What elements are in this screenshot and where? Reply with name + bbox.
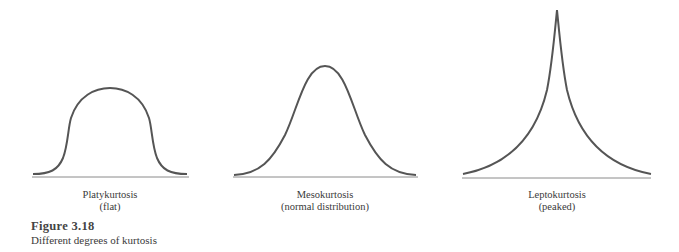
figure-number: Figure 3.18 [31, 219, 94, 234]
mesokurtic-curve [234, 66, 416, 175]
kurtosis-diagram [0, 0, 679, 252]
mesokurtosis-label: Mesokurtosis (normal distribution) [265, 189, 385, 213]
panel-title: Mesokurtosis [265, 189, 385, 201]
platykurtic-curve [33, 88, 187, 174]
platykurtosis-label: Platykurtosis (flat) [55, 189, 165, 213]
panel-title: Platykurtosis [55, 189, 165, 201]
figure-caption: Different degrees of kurtosis [31, 234, 157, 246]
leptokurtic-curve [463, 10, 651, 174]
leptokurtic-curve-panel [462, 10, 651, 178]
platykurtic-curve-panel [32, 88, 189, 177]
mesokurtic-curve-panel [233, 66, 418, 177]
panel-title: Leptokurtosis [502, 189, 612, 201]
panel-subtitle: (peaked) [502, 201, 612, 213]
panel-subtitle: (normal distribution) [265, 201, 385, 213]
leptokurtosis-label: Leptokurtosis (peaked) [502, 189, 612, 213]
panel-subtitle: (flat) [55, 201, 165, 213]
